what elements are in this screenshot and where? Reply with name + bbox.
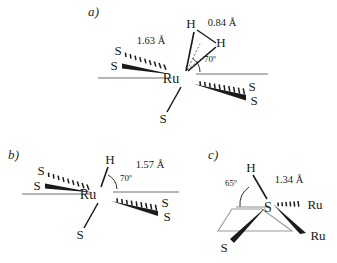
bond-line-h-b bbox=[101, 167, 108, 187]
panel-b-structure: Ru S S S S S H 1.57 Å 70º bbox=[22, 152, 179, 242]
bond-line-bottom-s-b bbox=[84, 203, 98, 228]
atom-label-h1-a: H bbox=[186, 16, 195, 31]
angle-arc-65-c bbox=[240, 187, 249, 207]
atom-label-s-lower-left-c: S bbox=[220, 240, 227, 255]
atom-label-ru-center-a: Ru bbox=[163, 71, 179, 86]
bond-hashed-wedge-ru-upper-c bbox=[278, 201, 299, 207]
atom-label-h2-a: H bbox=[216, 35, 225, 50]
atom-label-s-right-upper-a: S bbox=[248, 79, 255, 94]
bond-line-bottom-s-a bbox=[167, 87, 181, 112]
measurement-label-ru-h-b: 1.57 Å bbox=[136, 159, 165, 170]
atom-label-s-left-upper-b: S bbox=[37, 163, 44, 178]
atom-label-h-c: H bbox=[246, 160, 255, 175]
atom-label-ru-lower-c: Ru bbox=[310, 228, 326, 243]
atom-label-s-bottom-a: S bbox=[159, 111, 166, 126]
atom-label-s-right-upper-b: S bbox=[161, 195, 168, 210]
bond-line-h-h-a bbox=[197, 30, 216, 43]
measurement-label-s-h-c: 1.34 Å bbox=[275, 174, 304, 185]
angle-label-65-c: 65º bbox=[225, 178, 237, 188]
bond-line-h1-a bbox=[186, 32, 194, 71]
chemical-structure-figure: Ru S S S S S H H 1.63 Å 0.84 Å 70º bbox=[0, 0, 337, 263]
measurement-label-h-h-a: 0.84 Å bbox=[208, 17, 237, 28]
atom-label-s-left-upper-a: S bbox=[114, 43, 121, 58]
angle-label-70-a: 70º bbox=[204, 54, 216, 64]
atom-label-h-b: H bbox=[105, 152, 114, 167]
panel-a-structure: Ru S S S S S H H 1.63 Å 0.84 Å 70º bbox=[98, 16, 268, 126]
angle-arc-70-b bbox=[108, 175, 117, 189]
atom-label-s-center-c: S bbox=[264, 200, 272, 215]
atom-label-ru-upper-c: Ru bbox=[307, 197, 323, 212]
atom-label-s-left-lower-b: S bbox=[33, 178, 40, 193]
angle-label-70-b: 70º bbox=[120, 173, 132, 183]
atom-label-s-left-lower-a: S bbox=[110, 58, 117, 73]
atom-label-s-right-lower-b: S bbox=[163, 209, 170, 224]
atom-label-ru-center-b: Ru bbox=[80, 187, 96, 202]
panel-c-structure: S H Ru Ru S 1.34 Å 65º bbox=[218, 160, 326, 255]
bond-line-h-c bbox=[253, 175, 267, 199]
atom-label-s-right-lower-a: S bbox=[250, 93, 257, 108]
measurement-label-ru-h-a: 1.63 Å bbox=[137, 35, 166, 46]
bond-solid-wedge-s-lower-left-c bbox=[230, 207, 266, 243]
atom-label-s-bottom-b: S bbox=[76, 227, 83, 242]
